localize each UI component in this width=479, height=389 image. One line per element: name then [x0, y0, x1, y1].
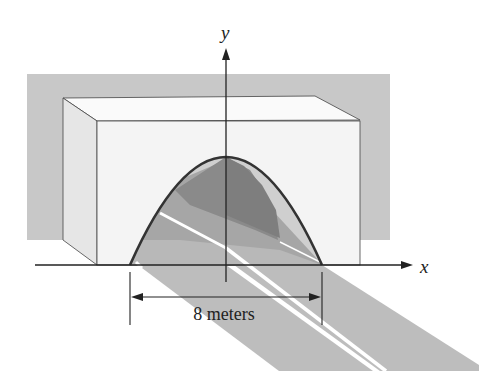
dimension-arrow-left-icon	[131, 293, 143, 301]
dimension-label: 8 meters	[193, 304, 254, 324]
block-left-face	[63, 98, 97, 265]
x-axis-arrow-icon	[401, 261, 413, 269]
x-axis-label: x	[419, 256, 429, 277]
block-top-face	[63, 96, 360, 121]
road	[138, 265, 479, 371]
y-axis-arrow-icon	[222, 48, 230, 60]
y-axis-label: y	[219, 22, 230, 43]
parabolic-arch-diagram: x y 8 meters	[0, 0, 479, 389]
